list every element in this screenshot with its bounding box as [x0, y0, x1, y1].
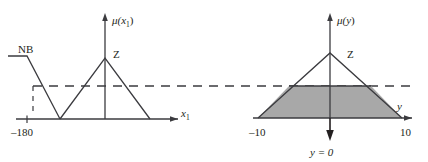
right-z-set-label: Z — [347, 48, 354, 60]
left-chart-group: NB Z –180 μ(x1) x1 — [8, 13, 190, 138]
figure-canvas: NB Z –180 μ(x1) x1 — [0, 0, 428, 162]
left-tick-label-minus180: –180 — [10, 126, 34, 138]
left-x-axis — [16, 116, 178, 122]
left-y-axis — [102, 13, 108, 119]
left-y-axis-label: μ(x1) — [111, 14, 134, 29]
right-y-axis-label: μ(y) — [336, 14, 355, 27]
crisp-output-label: y = 0 — [309, 146, 334, 158]
right-x-axis-label: y — [396, 100, 402, 112]
left-z-set-label: Z — [113, 48, 120, 60]
defuzzified-output-arrow — [326, 118, 334, 141]
right-tick-label-left: –10 — [248, 126, 266, 138]
nb-set-label: NB — [18, 43, 33, 55]
right-tick-label-right: 10 — [400, 126, 412, 138]
left-x-axis-label: x1 — [180, 107, 190, 122]
fuzzy-inference-figure: NB Z –180 μ(x1) x1 — [0, 0, 428, 162]
nb-membership-curve — [8, 56, 60, 119]
